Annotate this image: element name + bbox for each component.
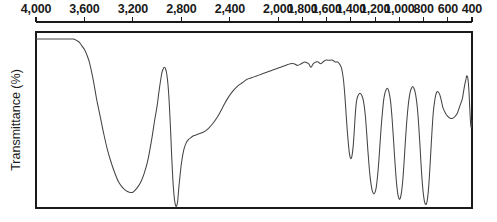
- ir-spectrum-figure: 4,0003,6003,2002,8002,4002,0001,8001,600…: [0, 0, 497, 222]
- x-tick-label: 600: [438, 2, 459, 16]
- x-tick-label: 800: [413, 2, 434, 16]
- x-axis-tick-marks: [36, 17, 472, 22]
- x-tick-label: 4,000: [21, 2, 52, 16]
- x-tick-label: 400: [462, 2, 483, 16]
- x-tick-label: 3,200: [118, 2, 149, 16]
- spectrum-svg: 4,0003,6003,2002,8002,4002,0001,8001,600…: [0, 0, 497, 222]
- y-axis-title: Transmittance (%): [9, 69, 23, 171]
- x-tick-label: 3,600: [69, 2, 100, 16]
- x-axis-tick-labels: 4,0003,6003,2002,8002,4002,0001,8001,600…: [21, 2, 483, 16]
- x-tick-label: 2,800: [166, 2, 197, 16]
- transmittance-trace: [36, 39, 472, 207]
- x-tick-label: 2,400: [215, 2, 246, 16]
- x-tick-label: 1,000: [384, 2, 415, 16]
